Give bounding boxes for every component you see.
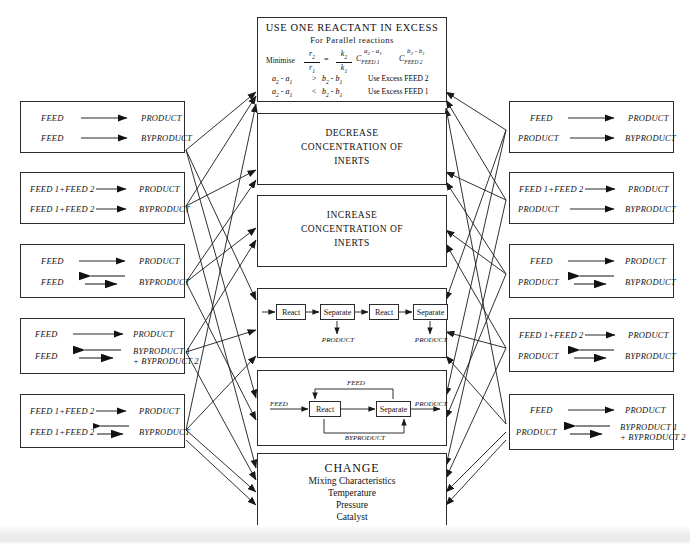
unit-separate-2: Separate bbox=[413, 304, 448, 320]
staged-output-1: PRODUCT bbox=[312, 336, 364, 344]
right-1-row-2-reactants: PRODUCT bbox=[518, 133, 559, 143]
left-4-row-2-products-line2: + BYPRODUCT 2 bbox=[133, 357, 199, 367]
right-2-row-2-reactants: PRODUCT bbox=[518, 204, 559, 214]
decrease-line-3: INERTS bbox=[258, 156, 446, 166]
right-5-row-2-products-line2: + BYPRODUCT 2 bbox=[620, 433, 686, 443]
right-5-row-1-arrow-icon bbox=[568, 405, 624, 415]
right-2-row-1-arrow-icon bbox=[585, 184, 625, 194]
staged-flow-lines bbox=[258, 289, 448, 359]
right-3-row-2-reversible-arrow-icon bbox=[566, 272, 624, 289]
unit-react-1: React bbox=[276, 304, 306, 320]
c2-sub: FEED 2 bbox=[404, 59, 422, 65]
right-3-row-1-arrow-icon bbox=[568, 256, 624, 266]
right-2-row-1-reactants: FEED 1+FEED 2 bbox=[519, 184, 584, 194]
center-box-staged-react-separate: React Separate React Separate PRODUCT PR… bbox=[257, 288, 447, 358]
right-1-row-1-products: PRODUCT bbox=[628, 113, 669, 123]
right-2-row-2-products: BYPRODUCT bbox=[625, 204, 676, 214]
left-box-2: FEED 1+FEED 2 PRODUCT FEED 1+FEED 2 BYPR… bbox=[20, 172, 185, 224]
center-box-decrease-inerts: DECREASE CONCENTRATION OF INERTS bbox=[257, 113, 447, 185]
left-box-3: FEED PRODUCT FEED BYPRODUCT bbox=[20, 244, 185, 298]
left-4-row-2-reversible-arrow-icon bbox=[71, 346, 131, 363]
increase-line-1: INCREASE bbox=[258, 210, 446, 220]
change-item-2: Temperature bbox=[258, 488, 446, 498]
increase-line-3: INERTS bbox=[258, 238, 446, 248]
unit-separate-1: Separate bbox=[320, 304, 355, 320]
unit-react-2: React bbox=[369, 304, 399, 320]
right-1-row-2-products: BYPRODUCT bbox=[625, 133, 676, 143]
left-box-1: FEED PRODUCT FEED BYPRODUCT bbox=[20, 101, 185, 153]
right-1-row-1-arrow-icon bbox=[568, 113, 624, 123]
recycle-outlet-label: PRODUCT bbox=[413, 400, 449, 408]
left-4-row-2-reactants: FEED bbox=[35, 351, 58, 361]
right-4-row-1-products: PRODUCT bbox=[628, 330, 669, 340]
k-num-sub: 2 bbox=[344, 54, 347, 60]
right-4-row-2-reversible-arrow-icon bbox=[566, 346, 624, 363]
left-1-row-2-reactants: FEED bbox=[41, 133, 64, 143]
right-2-row-1-products: PRODUCT bbox=[628, 184, 669, 194]
page-bottom-band bbox=[0, 535, 690, 542]
diagram-canvas: USE ONE REACTANT IN EXCESS For Parallel … bbox=[0, 0, 690, 545]
excess-title: USE ONE REACTANT IN EXCESS bbox=[258, 22, 446, 33]
left-3-row-2-products: BYPRODUCT bbox=[139, 277, 190, 287]
right-2-row-2-arrow-icon bbox=[570, 204, 624, 214]
formula-equals: = bbox=[324, 55, 329, 64]
right-box-1: FEED PRODUCT PRODUCT BYPRODUCT bbox=[509, 101, 674, 153]
right-1-row-2-arrow-icon bbox=[570, 133, 624, 143]
right-4-row-1-arrow-icon bbox=[585, 330, 625, 340]
right-3-row-2-products: BYPRODUCT bbox=[625, 277, 676, 287]
staged-output-2: PRODUCT bbox=[405, 336, 457, 344]
left-3-row-2-reversible-arrow-icon bbox=[77, 272, 135, 289]
left-box-4: FEED PRODUCT FEED BYPRODUCT 1 + BYPRODUC… bbox=[20, 318, 185, 374]
k-den-sub: 1 bbox=[344, 67, 347, 73]
left-1-row-1-arrow-icon bbox=[81, 113, 137, 123]
unit-separate-recycle: Separate bbox=[376, 401, 411, 417]
left-5-row-1-products: PRODUCT bbox=[139, 406, 180, 416]
r-den-sub: 1 bbox=[312, 67, 315, 73]
excess-formula: Minimise r2 r1 = k2 k1 bbox=[264, 48, 444, 74]
right-5-row-2-reversible-arrow-icon bbox=[562, 422, 620, 439]
excess-subtitle: For Parallel reactions bbox=[258, 35, 446, 45]
left-2-row-1-reactants: FEED 1+FEED 2 bbox=[30, 184, 95, 194]
change-item-3: Pressure bbox=[258, 500, 446, 510]
c1-sub: FEED 1 bbox=[361, 59, 379, 65]
formula-c-feed1-exponent: a2 - a1 bbox=[364, 47, 382, 56]
left-1-row-1-products: PRODUCT bbox=[141, 113, 182, 123]
left-2-row-2-products: BYPRODUCT bbox=[139, 204, 190, 214]
excess-action-2: Use Excess FEED 1 bbox=[368, 87, 429, 96]
decrease-line-1: DECREASE bbox=[258, 128, 446, 138]
right-4-row-2-reactants: PRODUCT bbox=[518, 351, 559, 361]
left-1-row-1-reactants: FEED bbox=[41, 113, 64, 123]
left-4-row-1-reactants: FEED bbox=[35, 329, 58, 339]
left-2-row-1-arrow-icon bbox=[96, 184, 136, 194]
excess-action-1: Use Excess FEED 2 bbox=[368, 74, 429, 83]
right-4-row-2-products: BYPRODUCT bbox=[625, 351, 676, 361]
left-3-row-1-reactants: FEED bbox=[41, 256, 64, 266]
right-3-row-2-reactants: PRODUCT bbox=[518, 277, 559, 287]
left-3-row-1-arrow-icon bbox=[79, 256, 135, 266]
formula-c-feed2-exponent: b2 - b1 bbox=[407, 47, 425, 56]
left-4-row-1-arrow-icon bbox=[73, 329, 133, 339]
left-5-row-1-reactants: FEED 1+FEED 2 bbox=[30, 406, 95, 416]
formula-lead: Minimise bbox=[266, 56, 295, 65]
recycle-top-label: FEED bbox=[332, 379, 380, 387]
recycle-bottom-label: BYPRODUCT bbox=[334, 434, 396, 442]
left-4-row-1-products: PRODUCT bbox=[133, 329, 174, 339]
right-5-row-1-products: PRODUCT bbox=[625, 405, 666, 415]
left-2-row-2-reactants: FEED 1+FEED 2 bbox=[30, 204, 95, 214]
unit-react-recycle: React bbox=[309, 401, 341, 417]
right-3-row-1-reactants: FEED bbox=[530, 256, 553, 266]
left-5-row-2-reversible-arrow-icon bbox=[93, 422, 139, 439]
left-2-row-1-products: PRODUCT bbox=[139, 184, 180, 194]
right-1-row-1-reactants: FEED bbox=[530, 113, 553, 123]
change-item-4: Catalyst bbox=[258, 512, 446, 522]
left-1-row-2-products: BYPRODUCT bbox=[141, 133, 192, 143]
change-title: CHANGE bbox=[258, 461, 446, 476]
right-3-row-1-products: PRODUCT bbox=[625, 256, 666, 266]
left-box-5: FEED 1+FEED 2 PRODUCT FEED 1+FEED 2 BYPR… bbox=[20, 394, 185, 448]
left-3-row-2-reactants: FEED bbox=[41, 277, 64, 287]
center-box-recycle-flowsheet: React Separate FEED PRODUCT FEED BYPRODU… bbox=[257, 370, 447, 446]
decrease-line-2: CONCENTRATION OF bbox=[258, 142, 446, 152]
right-4-row-1-reactants: FEED 1+FEED 2 bbox=[519, 330, 584, 340]
recycle-inlet-label: FEED bbox=[264, 400, 294, 408]
right-box-2: FEED 1+FEED 2 PRODUCT PRODUCT BYPRODUCT bbox=[509, 172, 674, 224]
